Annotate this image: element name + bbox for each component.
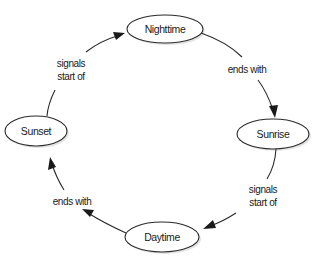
sunrise-label: Sunrise [257,128,290,140]
edge-sunset-nighttime-upper [86,36,117,52]
edge-nighttime-sunrise-upper [201,33,242,57]
edge-label-line: ends with [53,195,92,208]
edge-label-daytime-sunset: ends with [53,195,92,208]
edge-label-line: start of [249,196,277,209]
edge-label-line: start of [57,70,85,83]
edge-label-line: signals [57,57,85,70]
edge-daytime-sunset-upper [52,164,64,190]
edge-label-sunrise-daytime: signals start of [249,183,277,209]
arrow-to-nighttime-icon [113,32,125,40]
edge-sunset-nighttime-lower [47,90,55,116]
edge-label-line: ends with [228,63,267,76]
edge-nighttime-sunrise-lower [258,80,273,110]
arrow-to-sunset-icon [48,157,56,170]
arrow-to-sunrise-icon [269,105,278,118]
edge-label-sunset-nighttime: signals start of [57,57,85,83]
edge-daytime-sunset-lower [88,213,126,233]
edge-sunrise-daytime-upper [267,149,276,179]
nighttime-label: Nighttime [145,23,186,35]
edge-label-nighttime-sunrise: ends with [228,63,267,76]
daytime-label: Daytime [144,231,180,243]
sunset-label: Sunset [21,125,51,137]
edge-label-line: signals [249,183,277,196]
arrow-to-daytime-icon [203,220,216,229]
